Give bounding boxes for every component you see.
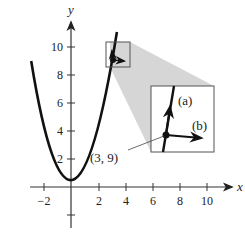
- plot-svg: −2 2 4 6 8 10 x 2 4 6 8 10 y: [0, 0, 245, 238]
- y-tick-label: 10: [51, 40, 63, 54]
- point-label: (3, 9): [90, 150, 118, 165]
- y-axis: 2 4 6 8 10 y: [51, 2, 75, 228]
- x-axis: −2 2 4 6 8 10 x: [30, 179, 243, 208]
- x-tick-label: 8: [177, 194, 183, 208]
- x-tick-label: −2: [38, 194, 51, 208]
- x-axis-label: x: [236, 179, 243, 194]
- x-tick-label: 10: [201, 194, 213, 208]
- y-tick-label: 8: [57, 68, 63, 82]
- point-marker: [163, 132, 170, 139]
- y-tick-label: 6: [57, 96, 63, 110]
- vector-a-label: (a): [178, 93, 192, 108]
- x-tick-label: 4: [123, 194, 129, 208]
- y-tick-label: 2: [57, 152, 63, 166]
- parabola-figure: −2 2 4 6 8 10 x 2 4 6 8 10 y: [0, 0, 245, 238]
- y-axis-label: y: [66, 2, 74, 17]
- vector-b-label: (b): [192, 118, 207, 133]
- y-tick-label: 4: [57, 124, 63, 138]
- inset-box: (a) (b): [151, 86, 214, 152]
- x-tick-label: 2: [96, 194, 102, 208]
- x-tick-label: 6: [150, 194, 156, 208]
